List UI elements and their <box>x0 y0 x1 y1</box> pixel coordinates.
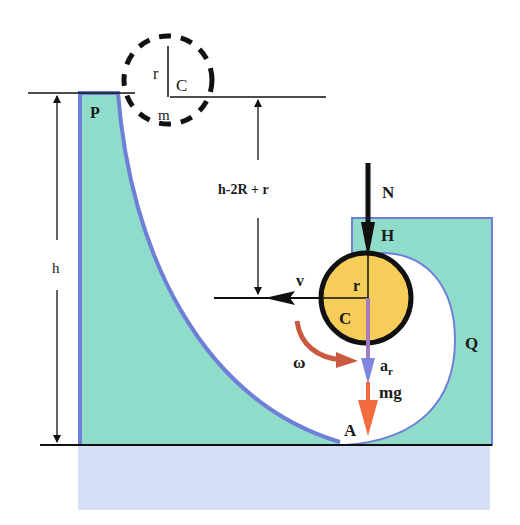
initial-mass-label: m <box>158 107 170 123</box>
ball-center-label: C <box>339 309 351 328</box>
radial-accel-arrowhead-icon <box>361 358 375 384</box>
ball-radius-label: r <box>353 277 360 294</box>
diagram-canvas: h h-2R + r r C m P r C v N H ar mg ω Q A <box>0 0 520 525</box>
initial-radius-label: r <box>153 65 159 82</box>
point-q-label: Q <box>465 334 478 353</box>
point-h-label: H <box>381 226 394 245</box>
height-drop-label: h-2R + r <box>218 182 269 197</box>
velocity-label: v <box>296 272 304 289</box>
gravity-arrowhead-icon <box>358 400 378 436</box>
normal-force-label: N <box>382 183 395 202</box>
height-h-label: h <box>52 260 60 276</box>
angular-velocity-label: ω <box>293 353 305 372</box>
point-p-label: P <box>90 104 100 121</box>
radial-accel-label: ar <box>380 357 393 377</box>
initial-center-label: C <box>176 76 187 95</box>
point-a-label: A <box>344 421 357 440</box>
base-block <box>78 445 490 510</box>
gravity-label: mg <box>379 383 402 402</box>
angular-velocity-arrowhead-icon <box>336 352 358 368</box>
left-ramp <box>80 93 340 445</box>
